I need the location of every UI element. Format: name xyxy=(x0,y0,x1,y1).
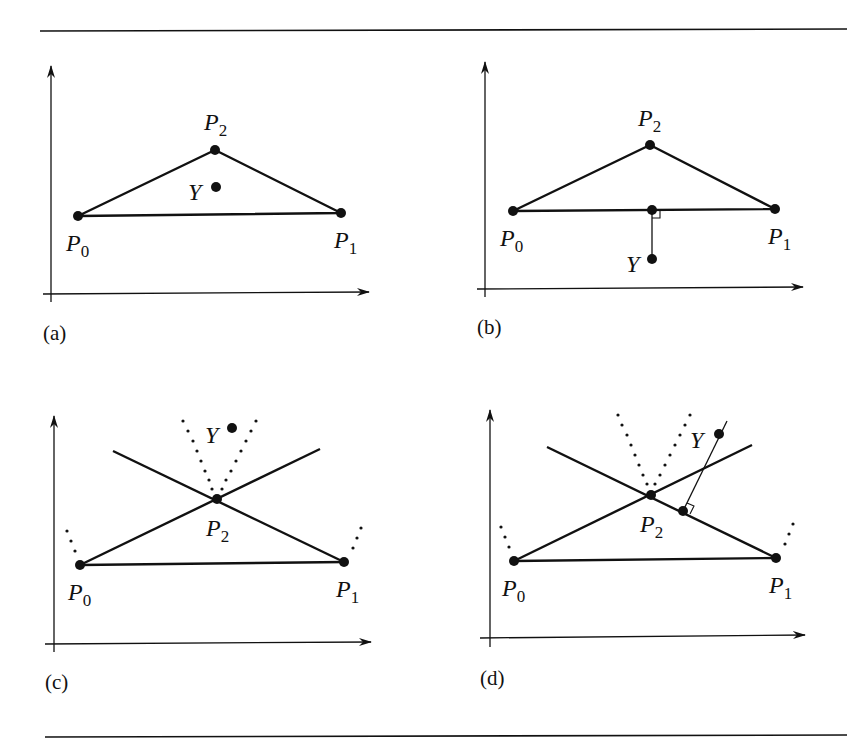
point-p2 xyxy=(212,494,222,504)
point-p0 xyxy=(509,556,519,566)
panel-a: P0 P1 P2 Y (a) xyxy=(43,66,369,345)
figure-canvas: P0 P1 P2 Y (a) P0 P1 P2 Y (b) xyxy=(0,0,847,739)
label-p2: P2 xyxy=(639,511,663,542)
label-y: Y xyxy=(626,251,642,277)
point-p0 xyxy=(75,560,85,570)
point-p1 xyxy=(770,204,780,214)
label-p1: P1 xyxy=(767,223,791,254)
point-p2 xyxy=(646,490,656,500)
label-p2: P2 xyxy=(637,105,661,136)
point-y xyxy=(227,423,237,433)
label-p0: P0 xyxy=(65,230,89,261)
top-rule xyxy=(40,29,847,31)
label-p0: P0 xyxy=(501,575,525,606)
line-through-p0-p2 xyxy=(80,449,320,565)
x-axis xyxy=(43,292,369,294)
line-through-p0-p2 xyxy=(514,445,752,561)
edge-p0-p1 xyxy=(514,558,776,561)
point-p1 xyxy=(771,553,781,563)
panel-c: P0 P1 P2 Y (c) xyxy=(45,416,371,694)
x-axis xyxy=(480,635,805,638)
point-p0 xyxy=(73,211,83,221)
panel-d: P0 P1 P2 Y (d) xyxy=(480,410,805,690)
caption-b: (b) xyxy=(477,315,502,339)
point-y xyxy=(714,429,724,439)
label-p1: P1 xyxy=(335,576,359,607)
label-p2: P2 xyxy=(205,515,229,546)
point-foot xyxy=(678,506,688,516)
label-p1: P1 xyxy=(768,572,792,603)
point-p1 xyxy=(339,557,349,567)
caption-a: (a) xyxy=(43,321,66,345)
bottom-rule xyxy=(45,735,847,737)
label-p0: P0 xyxy=(67,579,91,610)
caption-c: (c) xyxy=(45,670,68,694)
point-y xyxy=(647,254,657,264)
right-angle-mark xyxy=(687,503,694,514)
point-p1 xyxy=(336,208,346,218)
triangle xyxy=(78,150,341,216)
label-y: Y xyxy=(188,179,204,205)
panel-b: P0 P1 P2 Y (b) xyxy=(477,62,803,339)
caption-d: (d) xyxy=(480,666,505,690)
point-y xyxy=(211,182,221,192)
triangle xyxy=(513,145,775,211)
point-p2 xyxy=(210,145,220,155)
x-axis xyxy=(477,287,803,289)
label-y: Y xyxy=(690,427,706,453)
edge-p0-p1 xyxy=(80,562,344,565)
label-y: Y xyxy=(205,422,221,448)
label-p1: P1 xyxy=(333,227,357,258)
label-p0: P0 xyxy=(499,225,523,256)
point-p2 xyxy=(645,140,655,150)
label-p2: P2 xyxy=(203,109,227,140)
x-axis xyxy=(45,642,371,644)
point-p0 xyxy=(508,206,518,216)
point-foot xyxy=(647,205,657,215)
